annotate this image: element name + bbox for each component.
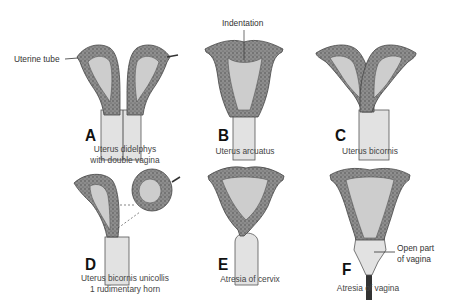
caption-e: Atresia of cervix [206, 273, 294, 284]
panel-f-drawing [330, 168, 410, 300]
caption-b: Uterus arcuatus [201, 145, 289, 156]
uterine-tube-label: Uterine tube [14, 53, 60, 64]
caption-c: Uterus bicornis [326, 145, 414, 156]
caption-d: Uterus bicornis unicollis 1 rudimentary … [68, 272, 182, 294]
panel-b-drawing [205, 30, 283, 160]
open-part-line1: Open part [397, 242, 434, 253]
caption-d-line1: Uterus bicornis unicollis [68, 272, 182, 283]
panel-c-drawing [316, 45, 416, 160]
caption-a: Uterus didelphys with double vagina [77, 143, 174, 165]
indentation-label: Indentation [222, 17, 263, 28]
panel-letter-b: B [218, 126, 229, 146]
panel-letter-e: E [218, 255, 228, 275]
caption-f: Atresia of vagina [324, 282, 412, 293]
panel-letter-f: F [342, 260, 351, 280]
panel-letter-c: C [335, 126, 346, 146]
caption-d-line2: 1 rudimentary horn [68, 283, 182, 294]
open-part-line2: of vagina [397, 253, 434, 264]
caption-a-line1: Uterus didelphys [77, 143, 174, 154]
open-part-label: Open part of vagina [397, 242, 434, 264]
caption-a-line2: with double vagina [77, 154, 174, 165]
